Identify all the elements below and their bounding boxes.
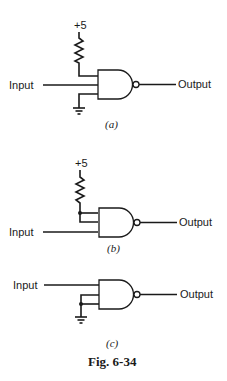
junction-dot-icon (79, 302, 83, 306)
inversion-bubble-icon (133, 82, 139, 88)
ground-icon (75, 317, 87, 323)
input-label-a: Input (9, 79, 33, 91)
ground-wire-a (79, 94, 98, 108)
output-label-c: Output (180, 288, 213, 300)
output-label-a: Output (178, 78, 211, 90)
ground-icon (73, 108, 85, 114)
inversion-bubble-icon (134, 292, 140, 298)
pullup-resistor-icon (75, 32, 98, 76)
figure-caption: Fig. 6-34 (88, 354, 137, 369)
input-label-c: Input (13, 279, 37, 291)
figure-6-34: +5 Input Output (a) +5 Input Output (b) (0, 0, 227, 381)
nand-gate-icon (99, 208, 134, 237)
junction-dot-icon (78, 211, 82, 215)
supply-label-a: +5 (74, 19, 87, 31)
supply-label-b: +5 (75, 157, 88, 169)
panel-a: +5 Input Output (a) (9, 19, 211, 131)
nand-gate-icon (99, 280, 134, 309)
nand-gate-icon (98, 70, 133, 99)
panel-b: +5 Input Output (b) (9, 157, 212, 255)
panel-c: Input Output (c) (13, 279, 213, 350)
sublabel-c: (c) (106, 337, 119, 350)
sublabel-b: (b) (107, 242, 120, 255)
sublabel-a: (a) (105, 118, 118, 131)
tie-wire-c (81, 295, 99, 317)
output-label-b: Output (179, 216, 212, 228)
input-label-b: Input (9, 226, 33, 238)
inversion-bubble-icon (134, 220, 140, 226)
